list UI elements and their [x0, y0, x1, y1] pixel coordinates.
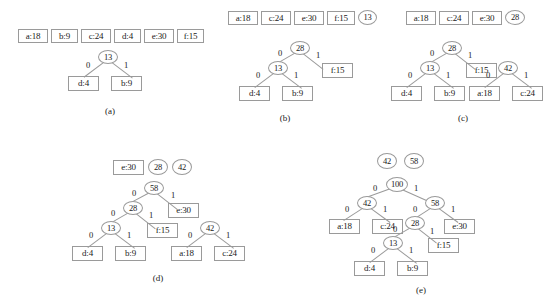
leaf-box: c:24 — [512, 86, 543, 101]
edge-bit-label: 0 — [256, 71, 260, 80]
queue-item-box: c:24 — [261, 11, 291, 25]
edge-bit-label: 0 — [413, 205, 417, 214]
internal-node: 42 — [200, 221, 220, 235]
internal-node: 28 — [442, 41, 462, 55]
edge-bit-label: 0 — [188, 231, 192, 240]
leaf-box: b:9 — [115, 246, 146, 261]
tree-edge — [454, 53, 475, 70]
edge-bit-label: 0 — [345, 205, 349, 214]
queue-item-box: c:24 — [81, 29, 111, 43]
edge-bit-label: 1 — [294, 71, 298, 80]
panel-caption: (d) — [133, 274, 183, 283]
leaf-box: a:18 — [329, 219, 360, 234]
queue-item-box: e:30 — [294, 11, 324, 25]
panel-caption: (e) — [396, 286, 446, 295]
queue-item-box: d:4 — [114, 29, 141, 43]
edge-bit-label: 1 — [524, 71, 528, 80]
edge-bit-label: 0 — [371, 246, 375, 255]
internal-node: 42 — [357, 196, 377, 210]
queue-item-box: e:30 — [113, 160, 144, 175]
edge-bit-label: 1 — [446, 71, 450, 80]
queue-item-box: b:9 — [51, 29, 78, 43]
queue-item-box: a:18 — [228, 11, 258, 25]
panel-caption: (b) — [260, 114, 310, 123]
leaf-box: b:9 — [282, 86, 313, 101]
queue-item-node: 28 — [505, 10, 525, 25]
queue-item-node: 42 — [172, 159, 192, 175]
edge-bit-label: 1 — [468, 51, 472, 60]
internal-node: 28 — [405, 216, 425, 230]
panel-caption: (c) — [438, 114, 488, 123]
internal-node: 13 — [101, 221, 121, 235]
queue-item-box: c:24 — [439, 11, 469, 25]
queue-item-node: 58 — [404, 153, 424, 169]
internal-node: 13 — [98, 50, 118, 64]
queue-item-node: 13 — [358, 10, 377, 25]
internal-node: 100 — [386, 177, 408, 192]
leaf-box: b:9 — [434, 86, 465, 101]
edge-bit-label: 0 — [430, 49, 434, 58]
internal-node: 13 — [383, 236, 403, 250]
edge-bit-label: 1 — [124, 61, 128, 70]
edge-bit-label: 1 — [383, 205, 387, 214]
leaf-box: b:9 — [111, 76, 142, 91]
queue-item-box: f:15 — [327, 11, 355, 25]
queue-item-box: a:18 — [18, 29, 48, 43]
leaf-box: d:4 — [68, 76, 99, 91]
panel-caption: (a) — [85, 107, 135, 116]
edge-bit-label: 1 — [149, 211, 153, 220]
internal-node: 42 — [498, 61, 518, 75]
internal-node: 58 — [425, 196, 445, 210]
edge-bit-label: 1 — [127, 231, 131, 240]
edge-bit-label: 1 — [316, 51, 320, 60]
edge-bit-label: 0 — [86, 61, 90, 70]
queue-item-node: 42 — [377, 153, 397, 169]
tree-edge — [302, 53, 323, 70]
internal-node: 58 — [144, 181, 164, 195]
queue-item-box: f:15 — [177, 29, 204, 43]
queue-item-box: a:18 — [406, 11, 436, 25]
edge-bit-label: 1 — [430, 227, 434, 236]
edge-bit-label: 1 — [226, 231, 230, 240]
queue-item-box: e:30 — [144, 29, 174, 43]
edge-bit-label: 0 — [111, 209, 115, 218]
edge-bit-label: 0 — [393, 225, 397, 234]
edge-bit-label: 1 — [451, 205, 455, 214]
edge-bit-label: 0 — [278, 49, 282, 58]
edge-bit-label: 0 — [408, 71, 412, 80]
edge-bit-label: 1 — [171, 191, 175, 200]
edge-bit-label: 0 — [89, 231, 93, 240]
queue-item-node: 28 — [148, 159, 168, 175]
edge-bit-label: 0 — [132, 189, 136, 198]
internal-node: 28 — [290, 41, 310, 55]
leaf-box: e:30 — [444, 219, 475, 234]
huffman-construction-figure: a:18 b:9 c:24 d:4 e:30 f:15 13 0 1 d:4 b… — [0, 0, 545, 304]
queue-item-box: e:30 — [472, 11, 502, 25]
internal-node: 13 — [420, 61, 440, 75]
edge-bit-label: 1 — [409, 246, 413, 255]
edge-bit-label: 1 — [414, 184, 418, 193]
edge-bit-label: 0 — [486, 71, 490, 80]
internal-node: 28 — [123, 201, 143, 215]
leaf-box: c:24 — [214, 246, 245, 261]
internal-node: 13 — [268, 61, 288, 75]
leaf-box: b:9 — [397, 261, 428, 276]
leaf-box: f:15 — [322, 63, 353, 78]
edge-bit-label: 0 — [373, 184, 377, 193]
